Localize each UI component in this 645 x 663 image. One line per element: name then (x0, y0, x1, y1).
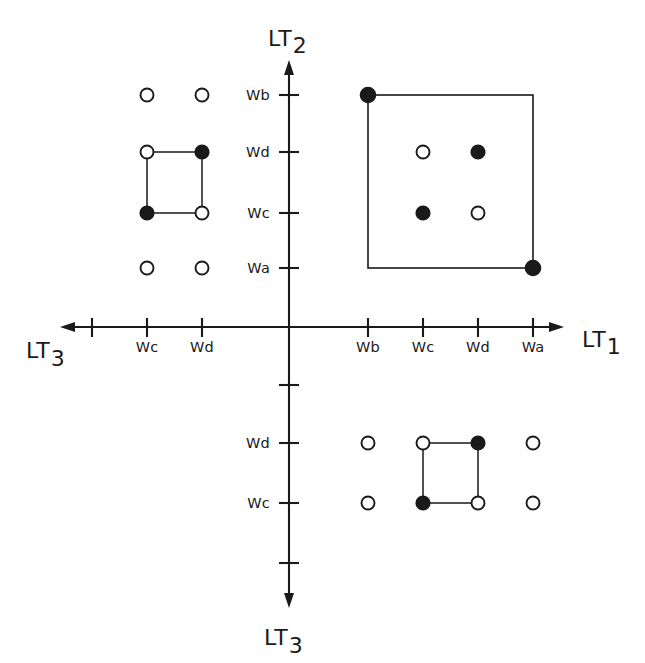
axis-label-lt1-base: LT (582, 327, 607, 352)
arrow-head-down (284, 593, 294, 608)
quadrant-lower-right (362, 436, 540, 510)
data-point[interactable] (527, 437, 540, 450)
data-point[interactable] (141, 262, 154, 275)
axis-label-lt3-down-sub: 3 (289, 633, 304, 658)
tick-label-up-wb: Wb (246, 87, 270, 103)
data-point[interactable] (527, 497, 540, 510)
quadrant-upper-left (140, 89, 209, 275)
data-point[interactable] (196, 262, 209, 275)
data-point[interactable] (141, 146, 154, 159)
arrow-head-up (284, 60, 294, 75)
tick-label-up-wa: Wa (247, 260, 270, 276)
figure-canvas: Wb Wc Wd Wa Wc Wd Wb Wd Wc Wa Wd Wc LT2 … (0, 0, 645, 663)
arrow-head-right (549, 322, 564, 332)
data-point[interactable] (471, 436, 485, 450)
data-point[interactable] (141, 89, 154, 102)
data-point[interactable] (417, 437, 430, 450)
tick-label-down-wd: Wd (246, 435, 270, 451)
data-point[interactable] (361, 88, 376, 103)
data-point[interactable] (417, 146, 430, 159)
tick-label-right-wc: Wc (412, 339, 435, 355)
quadrant-upper-right (361, 88, 541, 276)
axis-label-lt3-left-sub: 3 (51, 346, 66, 371)
axis-label-lt3-down-base: LT (264, 625, 289, 650)
tick-label-up-wd: Wd (246, 144, 270, 160)
axis-label-lt3-left: LT3 (26, 338, 66, 371)
tick-label-down-wc: Wc (247, 495, 270, 511)
axis-label-lt2-base: LT (268, 26, 293, 51)
axis-label-lt2-sub: 2 (293, 33, 308, 58)
tick-label-left-wd: Wd (190, 339, 214, 355)
axis-label-lt3-left-base: LT (26, 338, 51, 363)
ticks-group (92, 95, 533, 563)
data-point[interactable] (472, 497, 485, 510)
data-point[interactable] (362, 437, 375, 450)
tick-label-right-wa: Wa (522, 339, 545, 355)
data-point[interactable] (416, 206, 430, 220)
axis-label-lt1: LT1 (582, 327, 622, 359)
data-point[interactable] (472, 207, 485, 220)
data-point[interactable] (526, 261, 541, 276)
axis-label-lt1-sub: 1 (607, 334, 622, 359)
tick-label-up-wc: Wc (247, 205, 270, 221)
axes-group (60, 60, 564, 608)
axis-label-lt2: LT2 (268, 26, 308, 58)
data-point[interactable] (362, 497, 375, 510)
axis-label-lt3-down: LT3 (264, 625, 304, 658)
tick-label-left-wc: Wc (136, 339, 159, 355)
connector-box-upper-right (368, 95, 533, 268)
data-point[interactable] (140, 206, 154, 220)
data-point[interactable] (196, 207, 209, 220)
arrow-head-left (60, 322, 75, 332)
tick-label-right-wb: Wb (356, 339, 380, 355)
connector-box-lower-right (423, 443, 478, 503)
tick-label-right-wd: Wd (466, 339, 490, 355)
data-point[interactable] (195, 145, 209, 159)
data-point[interactable] (196, 89, 209, 102)
connector-box-upper-left (147, 152, 202, 213)
data-point[interactable] (416, 496, 430, 510)
data-point[interactable] (471, 145, 485, 159)
